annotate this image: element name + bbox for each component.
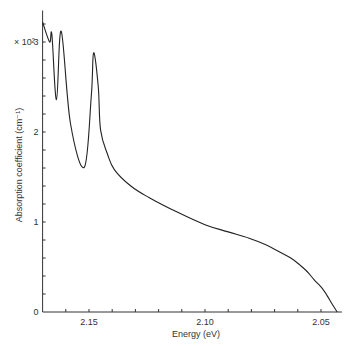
y-tick-label: 1 (34, 217, 39, 227)
y-tick-label: 2 (34, 127, 39, 137)
absorption-curve (43, 22, 338, 312)
x-tick-label: 2.05 (312, 317, 330, 327)
y-axis-title: Absorption coefficient (cm⁻¹) (14, 108, 24, 222)
x-axis-title: Energy (eV) (172, 329, 220, 339)
absorption-chart: 2.152.102.050123 Energy (eV) Absorption … (0, 0, 357, 346)
y-multiplier-label: × 10² (14, 37, 35, 47)
axes (43, 11, 342, 313)
tick-labels: 2.152.102.050123 (34, 37, 330, 327)
y-tick-label: 0 (34, 307, 39, 317)
x-tick-label: 2.10 (196, 317, 214, 327)
x-tick-label: 2.15 (80, 317, 98, 327)
ticks (43, 24, 321, 312)
